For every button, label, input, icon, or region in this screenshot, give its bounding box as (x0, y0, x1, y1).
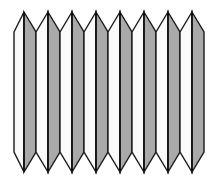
pleat-diagram (0, 0, 217, 186)
pleat-face-right-1 (24, 12, 36, 172)
figure-canvas (0, 0, 217, 186)
pleat-face-right-8 (192, 12, 204, 172)
pleat-face-left-4 (84, 12, 96, 172)
pleat-face-right-4 (96, 12, 108, 172)
pleat-face-left-7 (156, 12, 168, 172)
pleat-face-right-5 (120, 12, 132, 172)
pleat-face-left-3 (60, 12, 72, 172)
pleat-face-left-6 (132, 12, 144, 172)
pleat-face-right-2 (48, 12, 60, 172)
pleat-group (14, 12, 204, 172)
pleat-face-right-3 (72, 12, 84, 172)
pleat-face-left-5 (108, 12, 120, 172)
pleat-face-right-7 (168, 12, 180, 172)
pleat-face-right-6 (144, 12, 156, 172)
pleat-face-left-2 (36, 12, 48, 172)
pleat-face-left-1 (14, 12, 24, 172)
pleat-face-left-8 (180, 12, 192, 172)
